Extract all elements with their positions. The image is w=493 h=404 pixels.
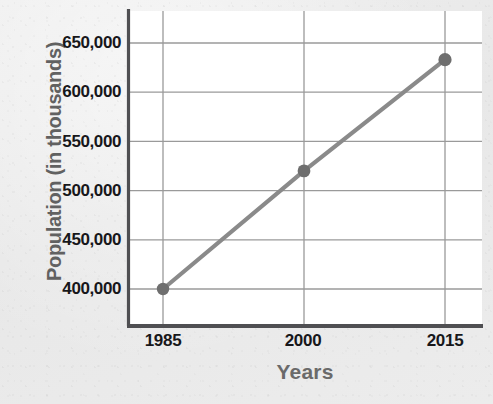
data-point-2000 bbox=[298, 165, 311, 178]
plot-area bbox=[0, 0, 493, 404]
data-point-2015 bbox=[438, 53, 451, 66]
chart-figure: Population (in thousands) 400,000 450,00… bbox=[0, 0, 493, 404]
data-point-1985 bbox=[157, 283, 169, 295]
